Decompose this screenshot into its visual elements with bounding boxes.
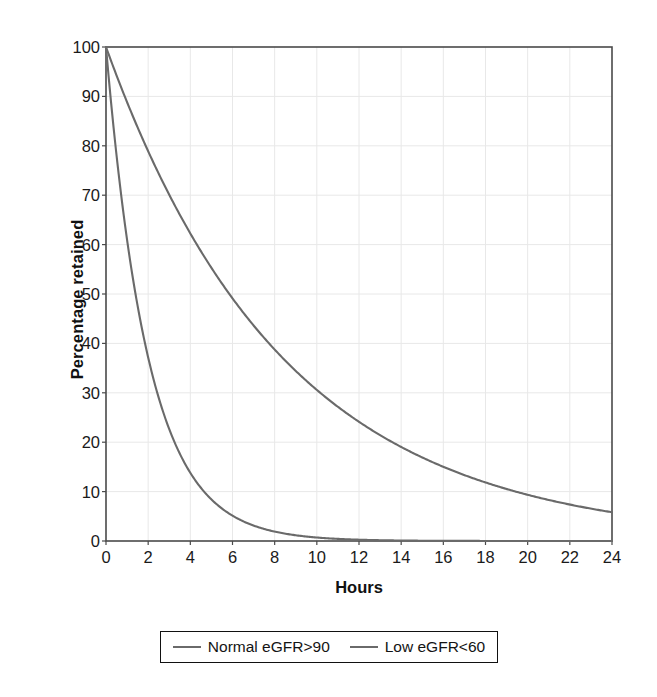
x-tick-label: 8 — [255, 549, 295, 566]
legend-entry-2: Low eGFR<60 — [350, 638, 485, 656]
legend-label: Low eGFR<60 — [385, 638, 485, 656]
x-axis-tick-labels: 024681012141618202224 — [0, 549, 657, 575]
x-tick-label: 10 — [297, 549, 337, 566]
legend-entry-1: Normal eGFR>90 — [173, 638, 330, 656]
x-tick-label: 22 — [550, 549, 590, 566]
x-tick-label: 18 — [466, 549, 506, 566]
x-tick-label: 12 — [339, 549, 379, 566]
x-tick-label: 2 — [128, 549, 168, 566]
chart-figure: Percentage retained 01020304050607080901… — [0, 0, 657, 697]
x-tick-label: 4 — [170, 549, 210, 566]
legend-line-swatch-icon — [350, 646, 378, 648]
x-axis-title: Hours — [106, 578, 612, 597]
gridlines — [106, 47, 612, 541]
legend-label: Normal eGFR>90 — [208, 638, 330, 656]
legend-line-swatch-icon — [173, 646, 201, 648]
x-tick-label: 20 — [508, 549, 548, 566]
x-tick-label: 0 — [86, 549, 126, 566]
chart-legend: Normal eGFR>90Low eGFR<60 — [160, 631, 498, 663]
x-tick-label: 24 — [592, 549, 632, 566]
x-tick-label: 16 — [423, 549, 463, 566]
axis-ticks — [102, 47, 612, 545]
x-tick-label: 6 — [213, 549, 253, 566]
x-tick-label: 14 — [381, 549, 421, 566]
